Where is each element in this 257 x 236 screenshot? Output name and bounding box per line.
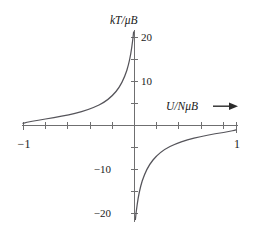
y-tick-label-minus-20: −20 <box>94 207 112 219</box>
chart-canvas: kT/μB U/NμB 20 10 −10 −20 −1 1 <box>0 0 257 236</box>
x-axis-ticks <box>24 122 237 134</box>
y-tick-label-10: 10 <box>141 75 153 87</box>
x-tick-label-minus-1: −1 <box>18 137 31 151</box>
x-axis-arrow-icon <box>213 102 238 110</box>
x-tick-label-plus-1: 1 <box>234 137 240 151</box>
curve-left-branch <box>23 32 134 123</box>
y-tick-label-20: 20 <box>141 31 153 43</box>
y-axis-title: kT/μB <box>110 14 138 27</box>
x-axis-title: U/NμB <box>166 100 198 113</box>
figure-container: kT/μB U/NμB 20 10 −10 −20 −1 1 <box>0 0 257 236</box>
y-tick-label-minus-10: −10 <box>94 163 112 175</box>
curve-right-branch <box>135 130 236 220</box>
